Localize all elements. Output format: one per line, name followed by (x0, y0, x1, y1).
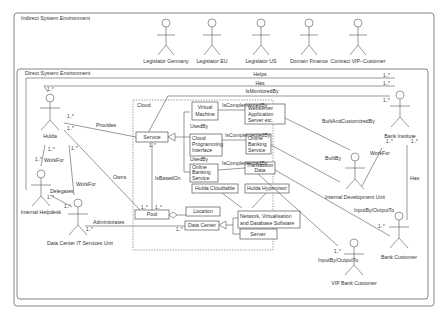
svg-text:1..*: 1..* (383, 98, 390, 103)
svg-text:Legislator US: Legislator US (245, 58, 277, 64)
svg-text:1..*: 1..* (378, 224, 385, 229)
svg-text:Server: Server (250, 231, 266, 237)
svg-text:1..*: 1..* (176, 227, 183, 232)
svg-text:Data Center: Data Center (188, 222, 216, 228)
svg-text:UsedBy: UsedBy (190, 156, 209, 162)
svg-text:Machine: Machine (195, 111, 215, 117)
svg-text:Data: Data (255, 167, 266, 173)
svg-text:Bank Customer: Bank Customer (381, 254, 417, 260)
svg-text:Service: Service (192, 175, 209, 181)
actor-hulda: Hulda (40, 94, 60, 139)
svg-text:Data Center IT Services Unit: Data Center IT Services Unit (47, 240, 113, 246)
svg-text:1..*: 1..* (141, 205, 148, 210)
svg-text:1..*: 1..* (47, 87, 54, 92)
svg-text:Legislator EU: Legislator EU (196, 58, 227, 64)
svg-text:Owns: Owns (113, 174, 127, 180)
svg-text:1..*: 1..* (334, 249, 341, 254)
svg-text:1..*: 1..* (48, 147, 55, 152)
svg-text:Has: Has (410, 175, 420, 181)
svg-text:Service: Service (143, 134, 160, 140)
actor-legislator-germany: Legislator Germany (143, 19, 189, 64)
svg-text:Delegates: Delegates (50, 188, 74, 194)
svg-text:1..*: 1..* (383, 73, 390, 78)
svg-text:VIP Bank Customer: VIP Bank Customer (331, 280, 377, 286)
svg-text:1..*: 1..* (71, 146, 78, 151)
svg-text:Location: Location (193, 208, 213, 214)
svg-text:WorkFor: WorkFor (44, 157, 64, 163)
svg-text:Hulda: Hulda (43, 133, 57, 139)
svg-text:1..*: 1..* (155, 205, 162, 210)
svg-text:Internal Helpdesk: Internal Helpdesk (21, 209, 62, 215)
svg-text:InputBy/OutputTo: InputBy/OutputTo (318, 257, 358, 263)
svg-text:Domain Finance: Domain Finance (290, 58, 328, 64)
svg-text:and Database Software: and Database Software (240, 220, 294, 226)
svg-text:Contract VIP–Customer: Contract VIP–Customer (331, 58, 386, 64)
svg-text:BuiltAndCustomizedBy: BuiltAndCustomizedBy (322, 118, 375, 124)
svg-text:UsedBy: UsedBy (190, 123, 209, 129)
svg-text:WorkFor: WorkFor (76, 181, 96, 187)
svg-text:Virtual: Virtual (198, 104, 213, 110)
svg-text:1..*: 1..* (67, 114, 74, 119)
svg-text:InputBy/OutputTo: InputBy/OutputTo (354, 207, 394, 213)
svg-text:1..*: 1..* (47, 195, 54, 200)
indirect-frame-title: Indirect System Environment (21, 15, 90, 21)
svg-text:WorkFor: WorkFor (370, 150, 390, 156)
svg-text:1..*: 1..* (64, 204, 71, 209)
svg-text:IsComplementedBy: IsComplementedBy (222, 102, 268, 108)
svg-text:Administrates: Administrates (93, 219, 125, 225)
svg-text:Internal Development Unit: Internal Development Unit (325, 194, 386, 200)
actor-bank-customer: Bank Customer (381, 212, 417, 260)
actor-legislator-us: Legislator US (245, 19, 277, 64)
svg-text:1..*: 1..* (86, 227, 93, 232)
svg-text:IsMonitoredBy: IsMonitoredBy (245, 88, 279, 94)
actor-legislator-eu: Legislator EU (196, 19, 227, 64)
svg-text:Provides: Provides (96, 122, 117, 128)
svg-text:IsBasedOn: IsBasedOn (155, 175, 181, 181)
svg-text:1..*: 1..* (411, 139, 418, 144)
svg-text:Pool: Pool (147, 211, 157, 217)
actor-domain-finance: Domain Finance (290, 19, 328, 64)
svg-text:BuiltBy: BuiltBy (325, 155, 342, 161)
actor-contract-vip-customer: Contract VIP–Customer (331, 19, 386, 64)
svg-text:Service: Service (248, 147, 265, 153)
svg-text:1..*: 1..* (149, 143, 156, 148)
svg-text:Hulda Cloudtable: Hulda Cloudtable (195, 185, 235, 191)
direct-frame-title: Direct System Environment (25, 70, 91, 76)
svg-text:Network, Virtualisation: Network, Virtualisation (240, 213, 292, 219)
cloud-frame-title: Cloud (137, 102, 151, 108)
svg-text:IsComplementedBy: IsComplementedBy (225, 132, 271, 138)
svg-text:1..*: 1..* (35, 157, 42, 162)
svg-text:Legislator Germany: Legislator Germany (143, 58, 189, 64)
svg-text:Interface: Interface (192, 147, 212, 153)
svg-text:1..*: 1..* (67, 126, 74, 131)
svg-text:IsComplementedBy: IsComplementedBy (222, 160, 268, 166)
svg-text:Hulda Hypervisor: Hulda Hypervisor (247, 185, 287, 191)
svg-text:Has: Has (255, 80, 265, 86)
svg-text:Server etc.: Server etc. (248, 117, 273, 123)
uml-diagram: Indirect System Environment Direct Syste… (0, 0, 445, 312)
svg-text:1..*: 1..* (383, 81, 390, 86)
svg-text:Helps: Helps (253, 71, 267, 77)
svg-text:1..*: 1..* (386, 139, 393, 144)
